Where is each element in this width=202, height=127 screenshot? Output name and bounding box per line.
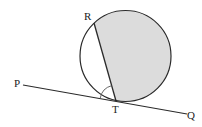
label-p: P [14,77,20,89]
circle-tangent-diagram: R T P Q [0,0,202,127]
label-r: R [84,10,92,22]
angle-arc-ptr [100,86,112,99]
label-q: Q [187,109,195,121]
label-t: T [112,103,119,115]
